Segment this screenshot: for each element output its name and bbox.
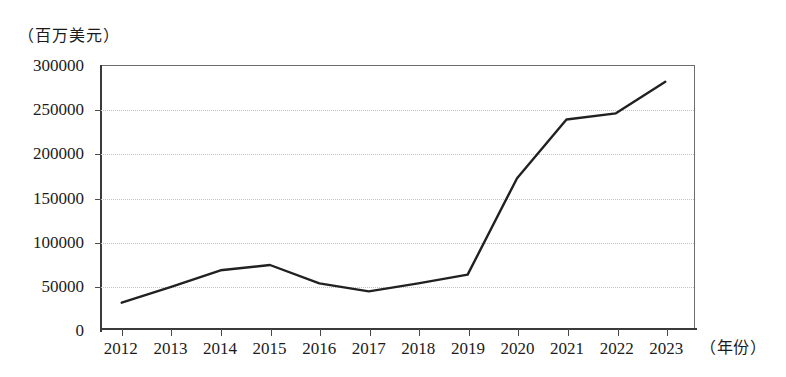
x-axis-tick <box>171 329 172 336</box>
y-axis-unit-label: （百万美元） <box>18 22 120 46</box>
line-chart-figure: （百万美元） 050000100000150000200000250000300… <box>0 0 786 377</box>
x-axis-tick <box>419 329 420 336</box>
x-axis-tick-label: 2023 <box>634 340 698 357</box>
y-axis-tick-label: 0 <box>0 322 84 339</box>
x-axis-unit-label: （年份） <box>700 340 766 356</box>
y-axis-tick-label: 50000 <box>0 278 84 295</box>
x-axis-tick <box>122 329 123 336</box>
y-axis-tick-label: 250000 <box>0 101 84 118</box>
y-axis-tick-label: 200000 <box>0 145 84 162</box>
y-axis-tick-label: 150000 <box>0 190 84 207</box>
x-axis-tick <box>271 329 272 336</box>
x-axis-tick <box>320 329 321 336</box>
x-axis-tick <box>618 329 619 336</box>
x-axis-tick <box>568 329 569 336</box>
x-axis-tick <box>469 329 470 336</box>
x-axis-tick <box>221 329 222 336</box>
y-axis-tick-label: 300000 <box>0 57 84 74</box>
y-axis-tick-label: 100000 <box>0 234 84 251</box>
plot-area <box>100 65 695 330</box>
series-line-金额 <box>122 82 666 303</box>
x-axis-tick <box>667 329 668 336</box>
x-axis-tick <box>370 329 371 336</box>
series-line-layer <box>101 66 694 329</box>
x-axis-tick <box>518 329 519 336</box>
